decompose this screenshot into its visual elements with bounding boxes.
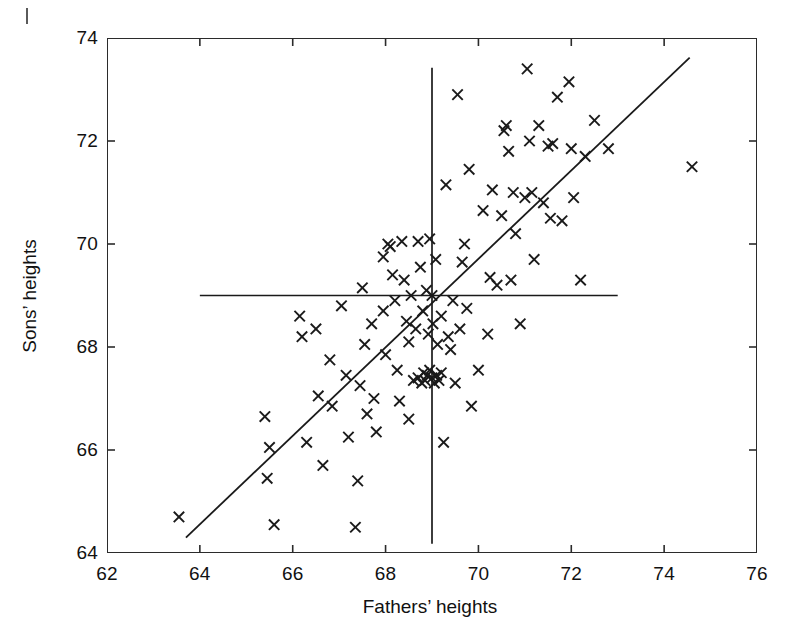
- x-tick-label-76: 76: [746, 563, 768, 585]
- y-tick-label-64: 64: [60, 542, 98, 564]
- y-tick-label-66: 66: [60, 439, 98, 461]
- x-tick-label-66: 66: [282, 563, 304, 585]
- page-edge-mark: [26, 8, 28, 24]
- x-tick-label-64: 64: [189, 563, 211, 585]
- y-axis-title: Sons’ heights: [19, 239, 41, 352]
- y-tick-label-72: 72: [60, 130, 98, 152]
- y-tick-label-74: 74: [60, 27, 98, 49]
- x-tick-label-62: 62: [96, 563, 118, 585]
- y-tick-label-68: 68: [60, 336, 98, 358]
- x-axis-title: Fathers’ heights: [363, 596, 497, 618]
- scatter-plot-figure: 6264666870727476 646668707274 Fathers’ h…: [0, 0, 803, 640]
- x-tick-label-68: 68: [375, 563, 397, 585]
- plot-area: [107, 38, 757, 553]
- x-tick-label-74: 74: [653, 563, 675, 585]
- x-tick-label-72: 72: [561, 563, 583, 585]
- y-tick-label-70: 70: [60, 233, 98, 255]
- x-tick-label-70: 70: [468, 563, 490, 585]
